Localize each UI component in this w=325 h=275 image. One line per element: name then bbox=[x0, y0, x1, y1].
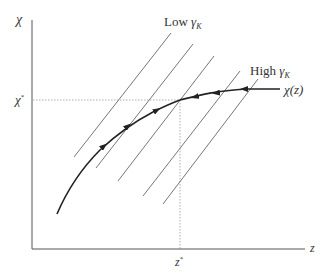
high-gamma-label: High γK bbox=[250, 64, 290, 77]
x-axis-label: z bbox=[310, 242, 315, 254]
iso-line-low bbox=[74, 33, 171, 157]
axes bbox=[32, 20, 305, 249]
phase-diagram: χ z χ* z* Low γK High γK χ(z) bbox=[0, 0, 325, 275]
low-gamma-label: Low γK bbox=[164, 15, 202, 28]
iso-line-high bbox=[163, 79, 258, 204]
chi-z-curve bbox=[57, 89, 280, 214]
iso-line-2 bbox=[96, 44, 193, 168]
diagram-canvas bbox=[0, 0, 325, 275]
z-star-label: z* bbox=[175, 256, 183, 268]
chi-curve bbox=[57, 89, 280, 214]
chi-star-label: χ* bbox=[15, 93, 24, 106]
y-axis-label: χ bbox=[16, 13, 22, 27]
iso-line-3 bbox=[118, 56, 214, 181]
equilibrium-guides bbox=[33, 100, 180, 249]
chi-curve-label: χ(z) bbox=[284, 83, 303, 96]
gamma-k-lines bbox=[74, 33, 258, 204]
